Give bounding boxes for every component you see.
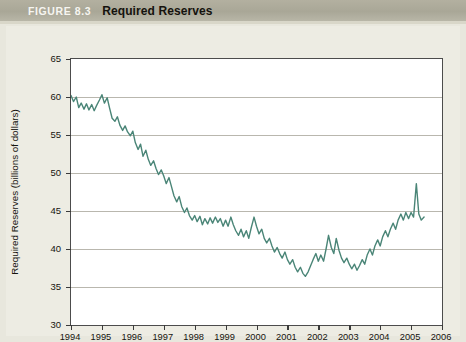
x-tick-label: 2001 — [276, 332, 297, 342]
y-tick-label: 65 — [39, 53, 61, 64]
x-tick — [226, 325, 227, 330]
y-tick-label: 50 — [39, 167, 61, 178]
x-tick — [71, 325, 72, 330]
x-tick — [349, 325, 350, 330]
x-tick — [442, 325, 443, 330]
chart-card: Required Reserves (billions of dollars) … — [6, 26, 460, 336]
x-tick-label: 1998 — [183, 332, 204, 342]
x-tick — [195, 325, 196, 330]
series-line-required-reserves — [71, 59, 442, 325]
x-tick-label: 2005 — [400, 332, 421, 342]
x-tick-label: 1999 — [214, 332, 235, 342]
x-tick — [380, 325, 381, 330]
y-tick-label: 55 — [39, 129, 61, 140]
x-tick-label: 1995 — [91, 332, 112, 342]
x-tick-label: 1996 — [121, 332, 142, 342]
x-tick — [287, 325, 288, 330]
y-tick-label: 35 — [39, 281, 61, 292]
x-tick-label: 1997 — [152, 332, 173, 342]
figure-title: Required Reserves — [102, 4, 212, 18]
y-tick-label: 60 — [39, 91, 61, 102]
y-tick-label: 30 — [39, 319, 61, 330]
figure-number: FIGURE 8.3 — [28, 5, 91, 17]
x-tick-label: 2002 — [307, 332, 328, 342]
plot-area — [70, 58, 443, 326]
figure-header: FIGURE 8.3 Required Reserves — [0, 0, 466, 21]
x-tick — [133, 325, 134, 330]
x-tick — [411, 325, 412, 330]
x-tick-label: 2000 — [245, 332, 266, 342]
x-tick — [164, 325, 165, 330]
x-tick-label: 2006 — [431, 332, 452, 342]
x-tick-label: 2004 — [369, 332, 390, 342]
x-tick — [318, 325, 319, 330]
x-tick — [257, 325, 258, 330]
x-tick-label: 2003 — [338, 332, 359, 342]
x-tick-label: 1994 — [60, 332, 81, 342]
data-line — [71, 95, 424, 277]
x-tick — [102, 325, 103, 330]
y-tick-label: 40 — [39, 243, 61, 254]
y-axis-title: Required Reserves (billions of dollars) — [9, 109, 20, 275]
header-underline — [0, 21, 466, 24]
y-tick-label: 45 — [39, 205, 61, 216]
